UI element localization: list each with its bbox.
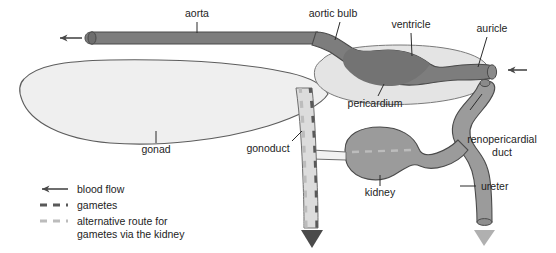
label-ventricle: ventricle xyxy=(391,18,430,31)
gonad-shape xyxy=(20,60,328,144)
gonoduct-shape xyxy=(296,86,318,230)
label-renopericardial-duct-line2: duct xyxy=(492,146,512,159)
label-auricle: auricle xyxy=(477,22,508,35)
legend-swatches xyxy=(40,189,68,221)
legend-label-gametes: gametes xyxy=(77,199,117,212)
figure-canvas: aorta aortic bulb ventricle auricle peri… xyxy=(0,0,556,253)
label-aorta: aorta xyxy=(185,7,209,20)
leader-aortic-bulb xyxy=(335,22,340,40)
label-aortic-bulb: aortic bulb xyxy=(309,7,357,20)
label-kidney: kidney xyxy=(365,186,395,199)
legend-label-alternative-route-line2: gametes via the kidney xyxy=(77,228,184,241)
ureter-outflow-arrow xyxy=(474,230,495,246)
label-gonoduct: gonoduct xyxy=(246,142,289,155)
gonoduct-kidney-connector xyxy=(312,150,346,160)
label-ureter: ureter xyxy=(481,180,508,193)
label-gonad: gonad xyxy=(141,143,170,156)
label-pericardium: pericardium xyxy=(348,97,403,110)
kidney-shape xyxy=(345,127,468,180)
gonoduct-outflow-arrow xyxy=(301,230,323,248)
legend-label-blood-flow: blood flow xyxy=(77,183,124,196)
legend-label-alternative-route: alternative route for xyxy=(77,215,167,228)
label-renopericardial-duct-line1: renopericardial xyxy=(467,133,536,146)
